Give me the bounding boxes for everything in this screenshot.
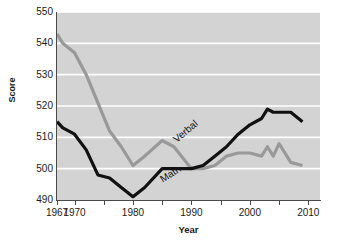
x-tick-label: 2000 (230, 207, 270, 219)
x-tick (250, 201, 251, 205)
y-axis-tick-labels: 550540530520510500490 (22, 12, 53, 200)
x-tick (57, 201, 58, 205)
y-tick-label: 550 (23, 7, 53, 17)
x-tick (162, 201, 163, 205)
x-axis-tick-labels: 196719701980199020002010 (57, 207, 320, 221)
x-tick (221, 201, 222, 205)
y-axis-title: Score (7, 55, 17, 125)
x-tick-label: 1990 (171, 207, 211, 219)
y-tick-label: 500 (23, 164, 53, 174)
series-line-verbal (57, 34, 302, 169)
x-tick (75, 201, 76, 205)
plot-area: Verbal Math (57, 12, 320, 200)
x-tick-label: 2010 (288, 207, 328, 219)
x-tick-label: 1980 (113, 207, 153, 219)
x-axis-ticks (57, 201, 320, 206)
y-tick-label: 530 (23, 70, 53, 80)
chart-figure: Score 550540530520510500490 Verbal Math … (0, 0, 338, 250)
y-tick-label: 540 (23, 38, 53, 48)
x-tick (308, 201, 309, 205)
x-tick (104, 201, 105, 205)
y-tick-label: 510 (23, 132, 53, 142)
x-tick (191, 201, 192, 205)
plot-svg (57, 12, 320, 200)
x-tick-label: 1970 (55, 207, 95, 219)
x-axis-title: Year (57, 224, 320, 235)
y-tick-label: 490 (23, 195, 53, 205)
x-tick (133, 201, 134, 205)
y-tick-label: 520 (23, 101, 53, 111)
x-tick (279, 201, 280, 205)
